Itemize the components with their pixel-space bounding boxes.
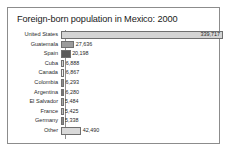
bar-track: 42,490 <box>61 126 215 136</box>
bar-row: Other42,490 <box>12 126 215 136</box>
chart-title: Foreign-born population in Mexico: 2000 <box>17 14 178 24</box>
bar-track: 6,867 <box>61 68 215 78</box>
bar: 339,717 <box>61 31 223 39</box>
bar-row: France5,425 <box>12 107 215 117</box>
category-label: Argentina <box>12 90 61 96</box>
category-label: Germany <box>12 118 61 124</box>
bar-value-label: 6,867 <box>66 70 80 75</box>
category-label: Guatemala <box>12 42 61 48</box>
bar-row: Germany5,338 <box>12 116 215 126</box>
bar <box>61 127 81 135</box>
category-label: Cuba <box>12 61 61 67</box>
bar <box>61 98 64 106</box>
bar-track: 5,484 <box>61 97 215 107</box>
bar-value-label: 6,280 <box>65 90 79 95</box>
chart-page: Foreign-born population in Mexico: 2000 … <box>0 0 227 151</box>
bar-value-label: 6,293 <box>66 80 80 85</box>
category-label: Spain <box>12 51 61 57</box>
bar <box>61 41 74 49</box>
bar-track: 27,636 <box>61 40 215 50</box>
bar <box>61 50 71 58</box>
bar-track: 339,717 <box>61 30 223 40</box>
category-label: Colombia <box>12 80 61 86</box>
bar-value-label: 20,198 <box>72 51 89 56</box>
bar-row: United States339,717 <box>12 30 215 40</box>
plot-area: United States339,717Guatemala27,636Spain… <box>12 30 215 139</box>
bar <box>61 108 64 116</box>
bar-value-label: 339,717 <box>201 32 221 37</box>
bar-value-label: 42,490 <box>83 128 100 133</box>
bar-row: Colombia6,293 <box>12 78 215 88</box>
bar-value-label: 5,425 <box>65 109 79 114</box>
bar-value-label: 5,338 <box>65 118 79 123</box>
category-label: France <box>12 109 61 115</box>
bar-row: El Salvador5,484 <box>12 97 215 107</box>
bar-track: 20,198 <box>61 49 215 59</box>
bar-track: 6,888 <box>61 59 215 69</box>
bar <box>61 89 64 97</box>
bar-track: 5,425 <box>61 107 215 117</box>
bar-value-label: 6,888 <box>66 61 80 66</box>
bar <box>61 117 64 125</box>
bar-track: 5,338 <box>61 116 215 126</box>
category-label: Other <box>12 128 61 134</box>
bar-row: Guatemala27,636 <box>12 40 215 50</box>
bar-row: Cuba6,888 <box>12 59 215 69</box>
category-label: Canada <box>12 70 61 76</box>
bar-row: Argentina6,280 <box>12 88 215 98</box>
category-label: El Salvador <box>12 99 61 105</box>
bar <box>61 79 64 87</box>
bar-track: 6,280 <box>61 88 215 98</box>
bar-value-label: 27,636 <box>76 42 93 47</box>
bars-container: United States339,717Guatemala27,636Spain… <box>12 30 215 136</box>
bar-value-label: 5,484 <box>65 99 79 104</box>
bar <box>61 69 64 77</box>
bar-row: Canada6,867 <box>12 68 215 78</box>
category-label: United States <box>12 32 61 38</box>
chart-figure-frame: Foreign-born population in Mexico: 2000 … <box>7 7 220 144</box>
bar-track: 6,293 <box>61 78 215 88</box>
bar-row: Spain20,198 <box>12 49 215 59</box>
bar <box>61 60 64 68</box>
